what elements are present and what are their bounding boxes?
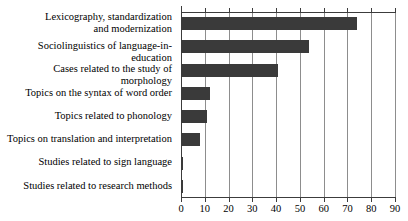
tick-bottom-10 bbox=[205, 198, 206, 202]
bar bbox=[181, 133, 200, 146]
category-label: Topics on translation and interpretation bbox=[0, 133, 172, 145]
x-tick-label: 40 bbox=[264, 203, 288, 215]
tick-bottom-50 bbox=[300, 198, 301, 202]
bar bbox=[181, 157, 183, 170]
tick-bottom-20 bbox=[229, 198, 230, 202]
x-tick-label: 80 bbox=[359, 203, 383, 215]
bar bbox=[181, 64, 278, 77]
tick-top-0 bbox=[181, 8, 182, 12]
category-label: Studies related to research methods bbox=[0, 180, 172, 192]
tick-bottom-80 bbox=[371, 198, 372, 202]
category-label: Studies related to sign language bbox=[0, 156, 172, 168]
top-axis-line bbox=[181, 12, 396, 13]
bar bbox=[181, 110, 207, 123]
tick-top-40 bbox=[276, 8, 277, 12]
tick-top-10 bbox=[205, 8, 206, 12]
bar-chart: Lexicography, standardization and modern… bbox=[0, 0, 408, 221]
bar bbox=[181, 180, 183, 193]
gridline-70 bbox=[347, 12, 348, 198]
tick-top-20 bbox=[229, 8, 230, 12]
gridline-80 bbox=[371, 12, 372, 198]
tick-top-50 bbox=[300, 8, 301, 12]
bottom-axis-line bbox=[181, 197, 396, 198]
tick-top-90 bbox=[395, 8, 396, 12]
tick-top-60 bbox=[324, 8, 325, 12]
tick-bottom-90 bbox=[395, 198, 396, 202]
category-label: Sociolinguistics of language-in-educatio… bbox=[0, 40, 172, 63]
x-tick-label: 30 bbox=[240, 203, 264, 215]
gridline-60 bbox=[324, 12, 325, 198]
gridline-90 bbox=[395, 12, 396, 198]
tick-bottom-70 bbox=[347, 198, 348, 202]
x-tick-label: 20 bbox=[217, 203, 241, 215]
tick-top-80 bbox=[371, 8, 372, 12]
tick-top-30 bbox=[252, 8, 253, 12]
x-tick-label: 90 bbox=[383, 203, 407, 215]
x-tick-label: 50 bbox=[288, 203, 312, 215]
x-tick-label: 0 bbox=[169, 203, 193, 215]
category-axis-labels: Lexicography, standardization and modern… bbox=[0, 12, 176, 198]
tick-bottom-0 bbox=[181, 198, 182, 202]
category-label: Topics related to phonology bbox=[0, 110, 172, 122]
tick-top-70 bbox=[347, 8, 348, 12]
tick-bottom-60 bbox=[324, 198, 325, 202]
bar bbox=[181, 87, 210, 100]
x-tick-label: 60 bbox=[312, 203, 336, 215]
category-label: Topics on the syntax of word order bbox=[0, 87, 172, 99]
tick-bottom-40 bbox=[276, 198, 277, 202]
category-label: Lexicography, standardization and modern… bbox=[0, 11, 172, 34]
x-tick-label: 10 bbox=[193, 203, 217, 215]
x-tick-label: 70 bbox=[335, 203, 359, 215]
bar bbox=[181, 17, 357, 30]
tick-bottom-30 bbox=[252, 198, 253, 202]
category-label: Cases related to the study of morphology bbox=[0, 63, 172, 86]
plot-area bbox=[181, 12, 395, 198]
bar bbox=[181, 40, 309, 53]
